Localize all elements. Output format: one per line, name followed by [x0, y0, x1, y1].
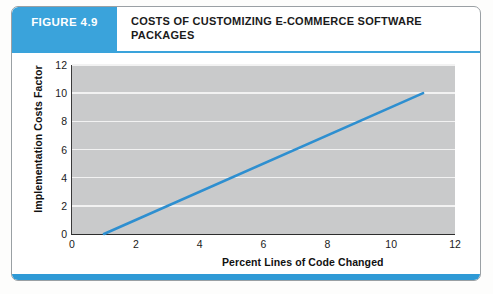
x-tick-label: 2 [133, 238, 139, 250]
plot-region: 024681012 024681012 [71, 65, 455, 235]
x-axis-label: Percent Lines of Code Changed [222, 256, 384, 268]
y-axis-label: Implementation Costs Factor [32, 52, 44, 227]
figure-header: FIGURE 4.9 COSTS OF CUSTOMIZING E-COMMER… [12, 7, 480, 51]
y-tick-label: 4 [61, 172, 67, 184]
x-tick-label: 0 [69, 238, 75, 250]
y-tick-label: 6 [61, 144, 67, 156]
page-body-text [14, 286, 479, 294]
y-tick-label: 8 [61, 115, 67, 127]
x-tick-label: 6 [261, 238, 267, 250]
figure-card: FIGURE 4.9 COSTS OF CUSTOMIZING E-COMMER… [11, 6, 481, 281]
figure-title: COSTS OF CUSTOMIZING E-COMMERCE SOFTWARE… [117, 7, 480, 51]
x-tick-label: 12 [449, 238, 461, 250]
x-tick-label: 4 [197, 238, 203, 250]
figure-number-label: FIGURE 4.9 [31, 16, 98, 28]
chart-area: Implementation Costs Factor 024681012 02… [12, 53, 481, 275]
series-line [104, 93, 423, 234]
figure-number-badge: FIGURE 4.9 [12, 7, 117, 51]
footer-divider [12, 274, 480, 280]
page-canvas: FIGURE 4.9 COSTS OF CUSTOMIZING E-COMMER… [0, 0, 493, 294]
y-tick-label: 0 [61, 228, 67, 240]
line-series-plot [72, 65, 455, 234]
y-tick-label: 10 [55, 87, 67, 99]
x-tick-label: 8 [324, 238, 330, 250]
y-tick-label: 12 [55, 59, 67, 71]
y-tick-label: 2 [61, 200, 67, 212]
x-tick-label: 10 [385, 238, 397, 250]
